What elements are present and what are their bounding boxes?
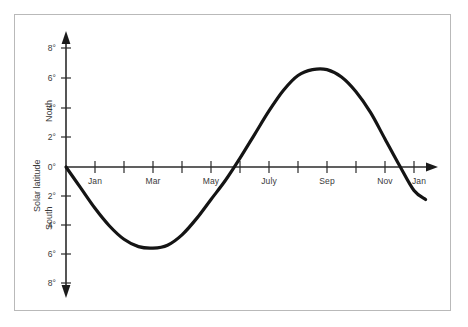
chart-plot-area xyxy=(0,0,468,327)
y-tick-label-south-8: 8° xyxy=(34,278,56,288)
x-tick-label-july: July xyxy=(249,176,289,186)
y-axis-top-arrowhead xyxy=(62,31,71,44)
y-axis-bottom-arrowhead xyxy=(62,285,71,298)
y-tick-label-south-2: 2° xyxy=(34,191,56,201)
solar-latitude-curve xyxy=(66,69,426,248)
y-tick-label-north-4: 4° xyxy=(34,103,56,113)
x-tick-label-jan-end: Jan xyxy=(399,176,439,186)
y-tick-label-north-2: 2° xyxy=(34,132,56,142)
y-tick-label-zero: 0° xyxy=(34,162,56,172)
x-tick-label-mar: Mar xyxy=(133,176,173,186)
x-axis-right-arrowhead xyxy=(426,162,438,171)
y-tick-label-north-6: 6° xyxy=(34,73,56,83)
x-tick-label-jan-start: Jan xyxy=(75,176,115,186)
y-tick-label-south-4: 4° xyxy=(34,220,56,230)
solar-latitude-chart-figure: North South Solar latitude 8° 6° 4° 2° 0… xyxy=(0,0,468,327)
x-tick-label-may: May xyxy=(191,176,231,186)
y-tick-label-south-6: 6° xyxy=(34,249,56,259)
x-tick-label-sep: Sep xyxy=(307,176,347,186)
y-tick-label-north-8: 8° xyxy=(34,43,56,53)
